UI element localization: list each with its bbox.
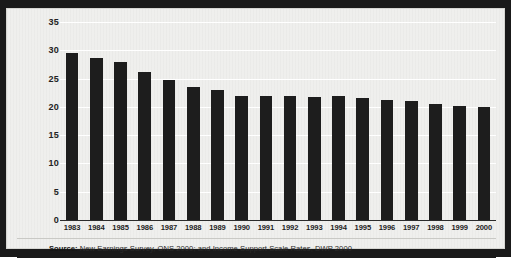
bar-group bbox=[356, 22, 369, 220]
bar-1984 bbox=[90, 58, 103, 220]
y-tick-label-15: 15 bbox=[49, 131, 59, 140]
x-tick-label-1983: 1983 bbox=[60, 222, 84, 234]
y-tick-label-10: 10 bbox=[49, 159, 59, 168]
x-tick-label-1991: 1991 bbox=[254, 222, 278, 234]
bar-1991 bbox=[260, 96, 273, 220]
y-tick-label-5: 5 bbox=[54, 187, 59, 196]
bar-group bbox=[138, 22, 151, 220]
bar-1988 bbox=[187, 87, 200, 220]
x-tick-label-1995: 1995 bbox=[351, 222, 375, 234]
x-tick-label-1993: 1993 bbox=[302, 222, 326, 234]
bar-1989 bbox=[211, 90, 224, 220]
bar-group bbox=[453, 22, 466, 220]
x-tick-label-2000: 2000 bbox=[472, 222, 496, 234]
x-tick-label-1996: 1996 bbox=[375, 222, 399, 234]
bar-group bbox=[332, 22, 345, 220]
chart-panel: Income support (for couples) as a percen… bbox=[6, 8, 505, 249]
y-tick-label-35: 35 bbox=[49, 18, 59, 27]
bar-group bbox=[235, 22, 248, 220]
bar-group bbox=[405, 22, 418, 220]
bar-1990 bbox=[235, 96, 248, 220]
bar-1985 bbox=[114, 62, 127, 220]
y-tick-label-25: 25 bbox=[49, 74, 59, 83]
y-axis-tick-labels: 05101520253035 bbox=[37, 22, 59, 220]
y-tick-label-30: 30 bbox=[49, 46, 59, 55]
source-note-label: Source: bbox=[49, 244, 78, 253]
bar-group bbox=[163, 22, 176, 220]
y-tick-label-20: 20 bbox=[49, 102, 59, 111]
x-tick-label-1998: 1998 bbox=[423, 222, 447, 234]
x-tick-label-1988: 1988 bbox=[181, 222, 205, 234]
bar-1997 bbox=[405, 101, 418, 220]
x-tick-label-1985: 1985 bbox=[108, 222, 132, 234]
bar-group bbox=[429, 22, 442, 220]
bar-group bbox=[187, 22, 200, 220]
x-tick-label-1987: 1987 bbox=[157, 222, 181, 234]
source-note: Source: New Earnings Survey, ONS 2000; a… bbox=[49, 242, 352, 255]
bar-group bbox=[308, 22, 321, 220]
x-tick-label-1999: 1999 bbox=[448, 222, 472, 234]
x-tick-label-1986: 1986 bbox=[133, 222, 157, 234]
bar-group bbox=[66, 22, 79, 220]
bar-group bbox=[260, 22, 273, 220]
bar-2000 bbox=[478, 107, 491, 220]
x-tick-label-1989: 1989 bbox=[205, 222, 229, 234]
bar-1994 bbox=[332, 96, 345, 220]
x-tick-label-1992: 1992 bbox=[278, 222, 302, 234]
bar-group bbox=[284, 22, 297, 220]
bar-1983 bbox=[66, 53, 79, 220]
bar-group bbox=[381, 22, 394, 220]
gridline-0 bbox=[60, 220, 496, 221]
bar-1996 bbox=[381, 100, 394, 220]
bar-group bbox=[478, 22, 491, 220]
bar-1999 bbox=[453, 106, 466, 220]
x-tick-label-1984: 1984 bbox=[84, 222, 108, 234]
bar-1998 bbox=[429, 104, 442, 220]
x-tick-label-1994: 1994 bbox=[326, 222, 350, 234]
source-note-text: New Earnings Survey, ONS 2000; and Incom… bbox=[80, 244, 352, 253]
bar-1995 bbox=[356, 98, 369, 220]
bar-1992 bbox=[284, 96, 297, 220]
bar-group bbox=[114, 22, 127, 220]
bar-1993 bbox=[308, 97, 321, 220]
x-axis-tick-labels: 1983198419851986198719881989199019911992… bbox=[60, 222, 496, 235]
x-tick-label-1997: 1997 bbox=[399, 222, 423, 234]
bar-group bbox=[90, 22, 103, 220]
source-divider bbox=[17, 238, 496, 239]
bar-group bbox=[211, 22, 224, 220]
bar-series bbox=[60, 22, 496, 220]
plot-area bbox=[60, 22, 496, 220]
bar-1986 bbox=[138, 72, 151, 220]
x-tick-label-1990: 1990 bbox=[230, 222, 254, 234]
bar-1987 bbox=[163, 80, 176, 220]
y-tick-label-0: 0 bbox=[54, 216, 59, 225]
